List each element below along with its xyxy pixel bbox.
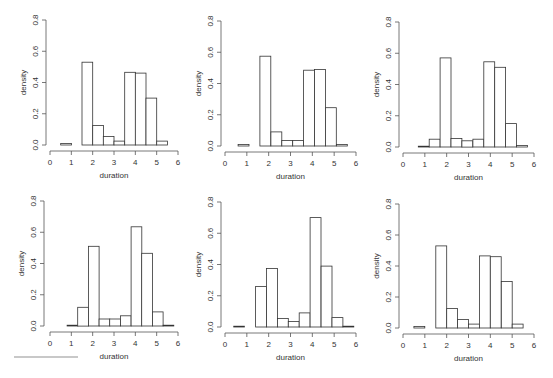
y-tick-label: 0.0 [206,140,215,152]
y-tick-label: 0.4 [29,257,38,269]
y-tick-label: 0.8 [206,196,215,208]
x-tick-label: 1 [245,159,250,168]
histogram-grid-svg: 0123456duration0.00.20.40.60.8density012… [0,0,553,378]
histogram-bar [146,98,157,145]
histogram-panel-5: 0123456duration0.00.20.40.60.8density [194,196,359,362]
histogram-bar [310,218,321,327]
histogram-bar [260,56,271,146]
footer-divider [14,356,78,358]
histogram-bar [418,146,429,147]
x-tick-label: 5 [154,339,159,348]
histogram-bar [414,326,425,328]
histogram-bar [336,144,347,146]
histogram-bars [67,227,174,326]
y-axis: 0.00.20.40.60.8density [17,195,44,332]
histogram-bar [282,141,293,147]
histogram-panel-6: 0123456duration0.00.20.40.60.8density [372,198,537,363]
x-tick-label: 2 [444,160,449,169]
x-tick-label: 6 [532,341,537,350]
x-tick-label: 0 [48,158,53,167]
x-tick-label: 0 [223,159,228,168]
histogram-bar [78,307,89,326]
x-tick-label: 2 [444,341,449,350]
x-tick-label: 3 [112,339,117,348]
histogram-bar [293,141,304,147]
histogram-bar [490,257,501,328]
x-tick-label: 4 [133,158,138,167]
x-axis-label: duration [100,352,129,361]
histogram-bar [135,73,146,145]
histogram-bar [451,138,462,147]
histogram-panel-2: 0123456duration0.00.20.40.60.8density [194,15,359,181]
x-tick-label: 0 [48,339,53,348]
histogram-bar [436,246,447,328]
x-tick-label: 6 [354,340,359,349]
histogram-bar [299,313,310,327]
x-axis-label: duration [454,354,483,363]
y-tick-label: 0.0 [29,320,38,332]
y-axis: 0.00.20.40.60.8density [372,198,399,334]
x-tick-label: 3 [112,158,117,167]
histogram-bar [473,139,484,147]
histogram-bar [517,145,528,147]
y-tick-label: 0.8 [31,14,40,26]
histogram-bars [238,56,347,146]
histogram-bar [288,322,299,328]
histogram-panel-3: 0123456duration0.00.20.40.60.8density [372,16,537,182]
x-tick-label: 2 [266,159,271,168]
x-axis-label: duration [100,171,129,180]
y-tick-label: 0.6 [384,229,393,241]
x-axis: 0123456duration [401,334,537,363]
histogram-bars [61,62,168,145]
histogram-bar [120,316,131,326]
x-tick-label: 6 [176,158,181,167]
histogram-bar [479,256,490,328]
y-axis-label: density [17,251,26,276]
histogram-bar [506,124,517,147]
x-tick-label: 3 [466,341,471,350]
histogram-bar [484,62,495,147]
x-tick-label: 3 [288,340,293,349]
histogram-bar [152,312,163,326]
y-tick-label: 0.6 [384,47,393,59]
histogram-bar [238,144,249,146]
x-axis: 0123456duration [401,153,537,182]
x-tick-label: 1 [423,341,428,350]
x-tick-label: 5 [332,159,337,168]
x-tick-label: 6 [532,160,537,169]
y-tick-label: 0.6 [206,46,215,58]
histogram-bar [429,139,440,147]
histogram-bar [82,62,93,145]
x-tick-label: 4 [133,339,138,348]
y-axis: 0.00.20.40.60.8density [19,14,46,151]
y-axis-label: density [19,70,28,95]
x-tick-label: 4 [310,159,315,168]
y-tick-label: 0.8 [384,16,393,28]
histogram-panel-4: 0123456duration0.00.20.40.60.8density [17,195,181,361]
histogram-bar [125,72,136,145]
histogram-bar [256,286,267,327]
x-tick-label: 5 [154,158,159,167]
x-axis-label: duration [276,172,305,181]
x-tick-label: 2 [90,158,95,167]
y-axis-label: density [194,71,203,96]
histogram-bar [234,326,245,327]
histogram-bars [418,58,527,147]
y-tick-label: 0.8 [206,15,215,27]
x-tick-label: 3 [466,160,471,169]
y-tick-label: 0.2 [31,108,40,120]
histogram-bar [343,326,354,327]
y-axis: 0.00.20.40.60.8density [194,196,221,333]
histogram-bars [234,218,354,327]
y-axis-label: density [372,253,381,278]
y-tick-label: 0.4 [31,76,40,88]
x-tick-label: 5 [510,160,515,169]
histogram-bar [67,325,78,326]
y-tick-label: 0.8 [384,198,393,210]
histogram-bar [142,253,153,326]
x-tick-label: 2 [90,339,95,348]
y-tick-label: 0.4 [384,78,393,90]
x-tick-label: 0 [401,160,406,169]
x-axis-label: duration [276,353,305,362]
y-axis: 0.00.20.40.60.8density [372,16,399,153]
